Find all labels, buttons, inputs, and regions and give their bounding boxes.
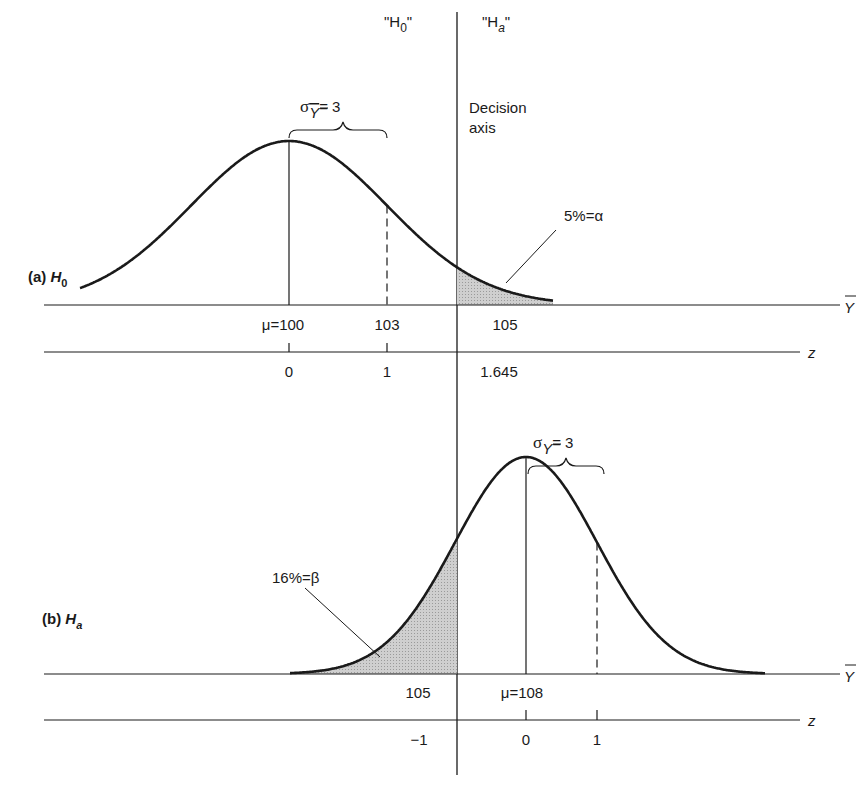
- alpha-pointer: [506, 230, 556, 283]
- h0-z-tick-label-1645: 1.645: [480, 363, 518, 380]
- ha-z-tick-label-1: 1: [593, 731, 601, 748]
- panel-a-title: (a) H0: [28, 268, 67, 289]
- panel-b: σY= 3 16%=β (b) Ha Y 105 μ=108 z −1 0 1: [42, 433, 856, 748]
- h0-z-tick-label-0: 0: [285, 363, 293, 380]
- h0-sigma-label: σY= 3: [300, 97, 340, 121]
- h0-z-axis-label: z: [807, 344, 816, 361]
- h0-ybar-tick-105: 105: [492, 316, 517, 333]
- beta-label: 16%=β: [272, 569, 320, 586]
- panel-b-title: (b) Ha: [42, 610, 82, 631]
- ha-header: "Ha": [482, 13, 510, 35]
- panel-a: σY= 3 5%=α (a) H0 Y μ=100 103 105 z 0 1 …: [28, 97, 856, 380]
- ha-z-tick-label-0: 0: [522, 731, 530, 748]
- ha-ybar-tick-108: μ=108: [501, 684, 543, 701]
- decision-axis-label-2: axis: [469, 119, 496, 136]
- decision-axis-label-1: Decision: [469, 99, 527, 116]
- ha-ybar-tick-105: 105: [405, 684, 430, 701]
- h0-curve: [80, 141, 553, 301]
- ha-sigma-label: σY= 3: [533, 433, 573, 457]
- h0-ybar-axis-label: Y: [844, 299, 855, 316]
- alpha-label: 5%=α: [564, 207, 603, 224]
- h0-ybar-tick-100: μ=100: [262, 316, 304, 333]
- h0-sigma-brace: [289, 122, 387, 138]
- ha-z-tick-label-neg1: −1: [410, 731, 427, 748]
- ha-curve: [290, 457, 765, 673]
- beta-pointer: [305, 588, 380, 657]
- h0-ybar-tick-103: 103: [374, 316, 399, 333]
- h0-header: "H0": [384, 13, 412, 35]
- ha-z-axis-label: z: [807, 712, 816, 729]
- ha-ybar-axis-label: Y: [844, 668, 855, 685]
- hypothesis-test-figure: "H0" "Ha" Decision axis σY= 3 5%=α (a) H…: [0, 0, 863, 806]
- h0-z-tick-label-1: 1: [383, 363, 391, 380]
